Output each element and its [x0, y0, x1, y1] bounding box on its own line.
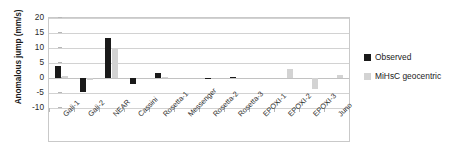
bar	[205, 78, 211, 79]
bar	[105, 38, 111, 78]
y-tick-label: 5	[18, 57, 44, 67]
bar	[87, 78, 93, 80]
bar	[287, 69, 293, 78]
y-tick-label: 0	[18, 72, 44, 82]
y-tick-label: -5	[18, 87, 44, 97]
y-tick-label: -10	[18, 102, 44, 112]
legend-item: MiHsC geocentric	[364, 71, 460, 81]
bar	[155, 73, 161, 78]
legend-label: Observed	[375, 52, 411, 62]
bar-group	[74, 18, 99, 108]
bar-group	[49, 18, 74, 108]
y-tick-label: 10	[18, 42, 44, 52]
bar-group	[99, 18, 124, 108]
legend-label: MiHsC geocentric	[375, 71, 441, 81]
bar	[312, 78, 318, 89]
y-tick-label: 20	[18, 12, 44, 22]
y-axis-ticks: 20151050-5-10	[14, 17, 44, 107]
bar	[162, 77, 168, 78]
bar	[112, 48, 118, 78]
bar	[55, 66, 61, 78]
chart-legend: ObservedMiHsC geocentric	[364, 52, 460, 90]
bar	[130, 78, 136, 84]
x-tick-mark	[49, 108, 50, 112]
bar	[80, 78, 86, 92]
x-axis-labels: Gali-1Gali-2NEARCassiniRosetta-1Messenge…	[49, 108, 349, 140]
legend-item: Observed	[364, 52, 460, 62]
legend-swatch-icon	[364, 54, 371, 61]
bar	[337, 75, 343, 78]
chart-container: Anomalous jump (mm/s) 20151050-5-10 Gali…	[0, 0, 462, 156]
bar	[230, 77, 236, 78]
bar	[62, 76, 68, 78]
y-tick-label: 15	[18, 27, 44, 37]
legend-swatch-icon	[364, 73, 371, 80]
bar-group	[124, 18, 149, 108]
